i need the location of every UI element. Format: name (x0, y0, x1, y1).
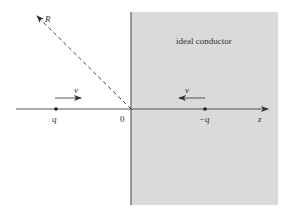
velocity-label-q: v (74, 86, 78, 95)
charge-q-label: q (52, 115, 57, 124)
r-label: R (45, 15, 51, 24)
charge-minus-q-point (203, 107, 207, 111)
charge-q-point (54, 107, 58, 111)
image-charge-diagram (0, 0, 292, 217)
velocity-label-minus-q: v (185, 86, 189, 95)
conductor-label: ideal conductor (176, 37, 232, 46)
z-axis-label: z (258, 115, 262, 124)
charge-minus-q-label: −q (199, 115, 210, 124)
origin-label: 0 (120, 115, 125, 124)
r-ray-dashed (37, 16, 131, 109)
